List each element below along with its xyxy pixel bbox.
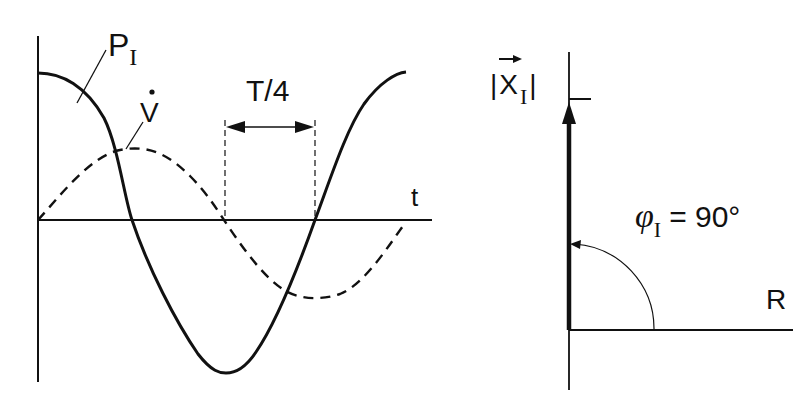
- magnitude-bar-right: |: [529, 69, 536, 100]
- pressure-curve-label: PI: [108, 27, 137, 70]
- left-waveform-plot: t PI V T/4: [38, 27, 432, 382]
- interval-arrow-right-head: [295, 121, 314, 133]
- phase-symbol: φ: [635, 197, 654, 234]
- velocity-dot-accent: [149, 89, 154, 94]
- phase-angle-arrowhead: [570, 240, 581, 249]
- phasor-arrowhead: [562, 102, 576, 124]
- pressure-label-leader: [77, 50, 106, 103]
- phasor-magnitude-label: |XI|: [490, 69, 537, 109]
- phase-value: = 90°: [669, 200, 740, 233]
- phase-angle-label: φI= 90°: [635, 197, 740, 242]
- phase-subscript: I: [654, 217, 661, 242]
- pressure-curve-solid: [38, 72, 406, 373]
- interval-arrow-left-head: [226, 121, 245, 133]
- magnitude-label-subscript: I: [520, 84, 527, 109]
- interval-label: T/4: [246, 74, 289, 107]
- velocity-curve-label: V: [140, 97, 159, 128]
- velocity-curve-dashed: [38, 148, 406, 298]
- pressure-label-main: P: [108, 27, 129, 63]
- diagram-canvas: t PI V T/4 R |XI|: [0, 0, 812, 413]
- pressure-label-subscript: I: [129, 44, 137, 70]
- phase-angle-arc: [574, 244, 654, 330]
- magnitude-bar-left: |: [490, 69, 497, 100]
- real-axis-label: R: [766, 284, 786, 315]
- time-axis-label: t: [411, 182, 419, 212]
- magnitude-label-main: X: [499, 69, 518, 100]
- right-phasor-plot: R |XI| φI= 90°: [490, 52, 793, 390]
- vector-overline-head: [513, 55, 522, 63]
